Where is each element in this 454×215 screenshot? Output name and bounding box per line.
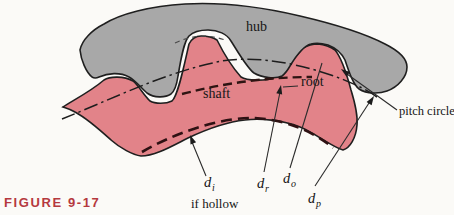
shaft-label: shaft bbox=[203, 86, 230, 101]
figure-caption: FIGURE 9-17 bbox=[4, 195, 100, 210]
dr-label-sub: r bbox=[265, 183, 269, 194]
if-hollow-label: if hollow bbox=[191, 196, 239, 211]
di-label: d bbox=[204, 174, 212, 190]
spline-diagram-canvas: hub shaft root pitch circle d i if hollo… bbox=[0, 0, 454, 215]
do-label: d bbox=[283, 170, 291, 186]
hub-label: hub bbox=[246, 19, 267, 34]
root-label: root bbox=[301, 74, 324, 89]
dp-label: d bbox=[308, 190, 316, 206]
figure-9-17-diagram: hub shaft root pitch circle d i if hollo… bbox=[0, 0, 454, 215]
di-leader-line bbox=[192, 142, 206, 176]
di-label-sub: i bbox=[212, 182, 215, 193]
do-label-sub: o bbox=[291, 178, 296, 189]
pitch-circle-label: pitch circle bbox=[399, 104, 454, 118]
dp-arrow-icon bbox=[367, 96, 374, 105]
dr-label: d bbox=[257, 175, 265, 191]
dp-label-sub: p bbox=[315, 198, 321, 209]
